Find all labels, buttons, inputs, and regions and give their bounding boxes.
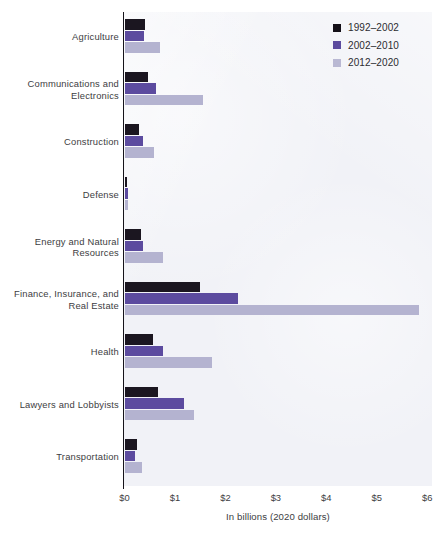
- category-row: Finance, Insurance, andReal Estate: [0, 277, 441, 330]
- category-row: Transportation: [0, 434, 441, 487]
- x-tick-label: $0: [119, 492, 129, 503]
- bar-group: [125, 229, 163, 264]
- bar: [125, 200, 129, 211]
- category-row: Lawyers and Lobbyists: [0, 382, 441, 435]
- bar-group: [125, 439, 143, 474]
- bar: [125, 83, 157, 94]
- category-label: Communications andElectronics: [0, 78, 119, 101]
- bar: [125, 72, 149, 83]
- bar: [125, 282, 201, 293]
- bar-group: [125, 282, 420, 317]
- category-row: Construction: [0, 119, 441, 172]
- x-axis-label: In billions (2020 dollars): [124, 511, 432, 522]
- bar-group: [125, 124, 154, 159]
- legend-swatch-icon: [333, 41, 341, 49]
- category-row: Energy and NaturalResources: [0, 224, 441, 277]
- bar: [125, 19, 145, 30]
- legend-swatch-icon: [333, 59, 341, 67]
- bar: [125, 387, 158, 398]
- bar: [125, 95, 204, 106]
- category-row: Health: [0, 329, 441, 382]
- bar-group: [125, 387, 195, 422]
- category-label: Construction: [0, 136, 119, 148]
- bar: [125, 398, 184, 409]
- bar: [125, 241, 144, 252]
- category-label: Energy and NaturalResources: [0, 236, 119, 259]
- bar: [125, 124, 139, 135]
- bar: [125, 357, 212, 368]
- category-label: Health: [0, 346, 119, 358]
- legend-label: 2002–2010: [348, 40, 399, 51]
- x-tick-label: $3: [271, 492, 281, 503]
- legend-item[interactable]: 1992–2002: [333, 22, 399, 33]
- legend-swatch-icon: [333, 24, 341, 32]
- bar: [125, 462, 143, 473]
- x-axis-ticks: $0$1$2$3$4$5$6: [0, 492, 441, 506]
- bar: [125, 42, 161, 53]
- bar: [125, 439, 138, 450]
- legend-item[interactable]: 2012–2020: [333, 57, 399, 68]
- bar: [125, 31, 144, 42]
- bar: [125, 293, 239, 304]
- bar: [125, 188, 129, 199]
- x-tick-label: $1: [170, 492, 180, 503]
- bar: [125, 410, 195, 421]
- bar: [125, 334, 153, 345]
- bar-group: [125, 19, 161, 54]
- bar: [125, 136, 143, 147]
- bar-group: [125, 334, 212, 369]
- bar: [125, 305, 420, 316]
- x-tick-label: $2: [220, 492, 230, 503]
- chart-legend: 1992–20022002–20102012–2020: [333, 22, 399, 75]
- category-label: Transportation: [0, 451, 119, 463]
- bar: [125, 177, 127, 188]
- legend-item[interactable]: 2002–2010: [333, 40, 399, 51]
- bar: [125, 451, 136, 462]
- bar: [125, 147, 154, 158]
- category-label: Lawyers and Lobbyists: [0, 399, 119, 411]
- category-label: Agriculture: [0, 31, 119, 43]
- legend-label: 1992–2002: [348, 22, 399, 33]
- category-label: Finance, Insurance, andReal Estate: [0, 288, 119, 311]
- x-tick-label: $4: [321, 492, 331, 503]
- bar-group: [125, 72, 204, 107]
- bar-group: [125, 177, 129, 212]
- bar: [125, 229, 142, 240]
- category-label: Defense: [0, 189, 119, 201]
- x-tick-label: $5: [372, 492, 382, 503]
- horizontal-bar-chart: AgricultureCommunications andElectronics…: [0, 0, 441, 535]
- x-tick-label: $6: [422, 492, 432, 503]
- bar: [125, 252, 163, 263]
- bar: [125, 346, 164, 357]
- legend-label: 2012–2020: [348, 57, 399, 68]
- category-row: Defense: [0, 172, 441, 225]
